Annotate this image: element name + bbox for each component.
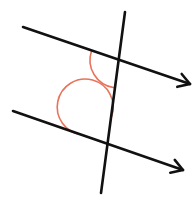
parallel-lines-diagram (0, 0, 193, 210)
background (0, 0, 193, 210)
